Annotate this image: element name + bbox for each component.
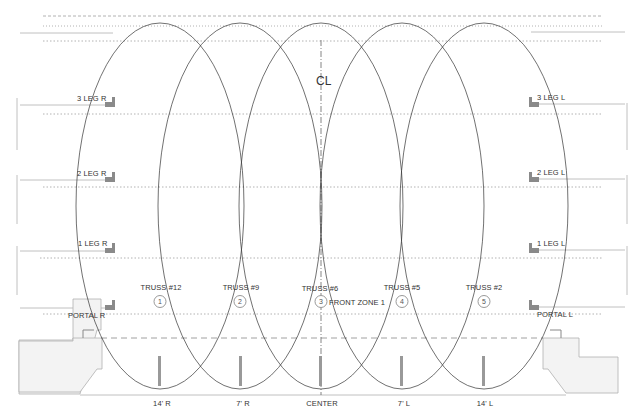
leg-label-1-r: 1 LEG R — [78, 240, 107, 248]
portal-label-r: PORTAL R — [68, 312, 105, 320]
truss-bars — [158, 356, 485, 386]
leg-label-1-l: 1 LEG L — [537, 240, 565, 248]
position-label-7l: 7' L — [398, 400, 410, 408]
leg-label-2-r: 2 LEG R — [77, 170, 106, 178]
ellipse-truss-5 — [320, 23, 484, 389]
truss-number-5: 5 — [478, 295, 491, 308]
front-zone-label: FRONT ZONE 1 — [329, 299, 385, 307]
leg-label-3-r: 3 LEG R — [77, 95, 106, 103]
right-platform-shape — [543, 338, 618, 393]
right-pipes — [530, 103, 627, 307]
position-label-7r: 7' R — [236, 400, 250, 408]
ellipse-truss-12 — [76, 23, 244, 389]
position-label-14l: 14' L — [477, 400, 494, 408]
truss-label-9: TRUSS #9 — [223, 284, 260, 292]
ellipse-truss-9 — [158, 23, 322, 389]
center-line-marker: CL — [316, 75, 331, 87]
truss-number-1: 1 — [154, 295, 167, 308]
right-platform-rail — [550, 330, 561, 338]
left-platform-shape — [19, 338, 102, 392]
leg-label-2-l: 2 LEG L — [537, 169, 565, 177]
truss-number-4: 4 — [396, 295, 409, 308]
truss-number-2: 2 — [234, 295, 247, 308]
truss-label-6: TRUSS #6 — [302, 285, 339, 293]
truss-label-2: TRUSS #2 — [466, 284, 503, 292]
lighting-plot-diagram: CL 3 LEG R 2 LEG R 1 LEG R PORTAL R 3 LE… — [0, 0, 641, 419]
truss-label-5: TRUSS #5 — [384, 284, 421, 292]
truss-number-3: 3 — [315, 295, 328, 308]
leg-label-3-l: 3 LEG L — [537, 94, 565, 102]
truss-label-12: TRUSS #12 — [141, 284, 182, 292]
position-label-center: CENTER — [306, 400, 337, 408]
diagram-canvas — [0, 0, 641, 419]
right-leg-markers — [529, 97, 539, 310]
left-pipes — [17, 98, 110, 308]
left-leg-markers — [105, 97, 115, 310]
portal-label-l: PORTAL L — [537, 311, 573, 319]
position-label-14r: 14' R — [153, 400, 171, 408]
